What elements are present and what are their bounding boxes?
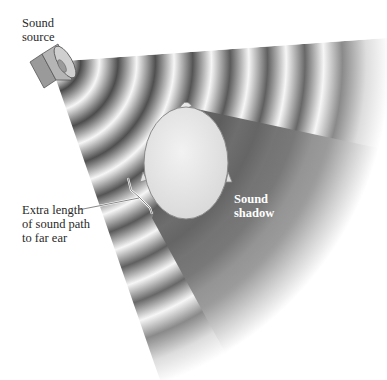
sound-shadow-label: Sound shadow bbox=[234, 192, 274, 220]
extra-length-label: Extra length of sound path to far ear bbox=[22, 203, 90, 245]
sound-source-label: Sound source bbox=[22, 16, 55, 44]
sound-shadow-diagram bbox=[0, 0, 387, 380]
sound-waves bbox=[50, 38, 387, 380]
